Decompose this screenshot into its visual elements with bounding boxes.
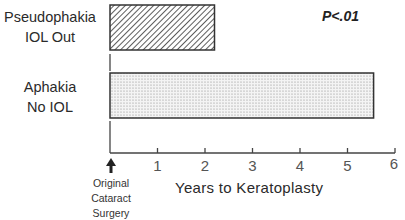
x-tick-label: 4 <box>296 157 304 174</box>
category-label-line: IOL Out <box>0 27 100 47</box>
category-label-line: No IOL <box>0 97 100 117</box>
bar-pseudophakia <box>110 5 215 50</box>
x-tick-label: 6 <box>390 155 398 172</box>
category-label-pseudophakia: Pseudophakia IOL Out <box>0 7 100 47</box>
x-tick-label: 2 <box>201 157 209 174</box>
category-label-line: Aphakia <box>0 77 100 97</box>
origin-arrow-icon <box>106 158 116 173</box>
x-axis-title: Years to Keratoplasty <box>175 179 323 196</box>
x-tick-label: 1 <box>153 157 161 174</box>
p-value-annotation: P<.01 <box>322 8 359 24</box>
category-label-aphakia: Aphakia No IOL <box>0 77 100 117</box>
origin-annotation: Original Cataract Surgery <box>82 176 140 220</box>
x-tick-label: 5 <box>343 157 351 174</box>
bar-aphakia <box>110 73 374 118</box>
x-axis-ticks <box>158 148 396 153</box>
origin-label-line: Surgery <box>82 206 140 220</box>
category-label-line: Pseudophakia <box>0 7 100 27</box>
origin-label-line: Original <box>82 176 140 191</box>
x-tick-label: 3 <box>248 157 256 174</box>
origin-label-line: Cataract <box>82 191 140 206</box>
